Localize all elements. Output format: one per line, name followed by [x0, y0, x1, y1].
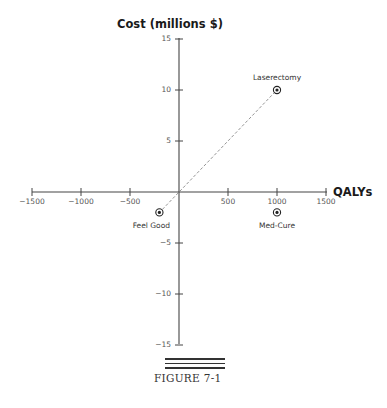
caption-rules [165, 358, 225, 372]
x-axis-title: QALYs [333, 185, 372, 199]
x-tick-label: 1000 [267, 197, 286, 206]
cost-qaly-chart: Cost (millions $) QALYs 15105−5−10−15−15… [0, 0, 387, 408]
rule-line [165, 367, 225, 369]
data-point-label: Feel Good [133, 221, 170, 230]
x-tick-label: −1500 [19, 197, 44, 206]
data-point-marker [273, 86, 280, 93]
y-tick-label: −5 [141, 238, 171, 247]
rule-line [165, 358, 225, 360]
x-tick-label: 500 [221, 197, 235, 206]
data-point-marker [273, 209, 280, 216]
figure-caption: FIGURE 7-1 [154, 372, 222, 384]
y-tick-label: 5 [141, 136, 171, 145]
rule-line [165, 363, 225, 365]
data-point-label: Laserectomy [253, 73, 301, 82]
x-tick-label: −1000 [68, 197, 93, 206]
y-tick-label: 15 [141, 34, 171, 43]
data-point-label: Med-Cure [259, 221, 295, 230]
y-axis-title: Cost (millions $) [117, 17, 223, 31]
x-tick-label: 1500 [316, 197, 335, 206]
y-tick-label: −10 [141, 289, 171, 298]
data-point-marker [156, 209, 163, 216]
x-tick-label: −500 [120, 197, 141, 206]
y-tick-label: −15 [141, 340, 171, 349]
y-tick-label: 10 [141, 85, 171, 94]
